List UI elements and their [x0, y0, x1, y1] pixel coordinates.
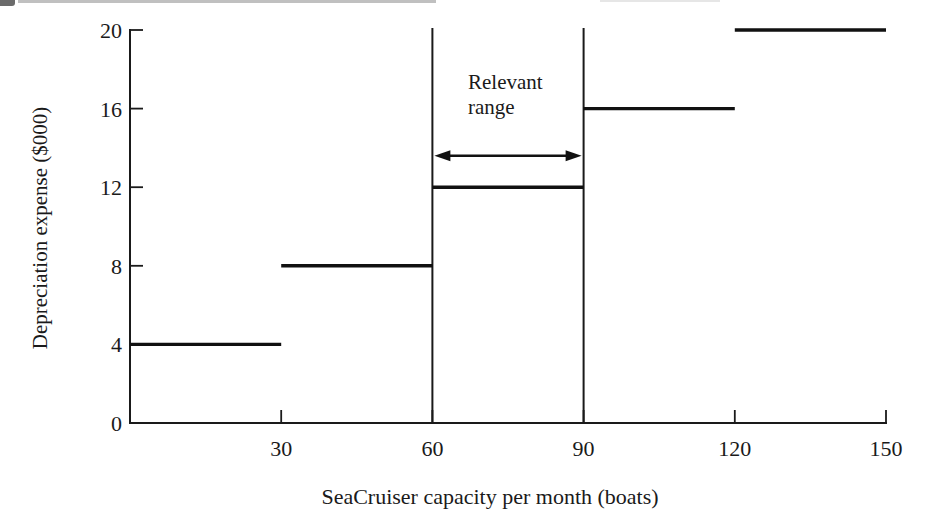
y-tick-label: 16 [100, 97, 122, 122]
relevant-range-label: Relevant range [468, 70, 543, 120]
y-axis-title: Depreciation expense ($000) [28, 107, 53, 350]
y-tick-label: 8 [111, 254, 122, 279]
range-arrow-right-head [566, 150, 582, 161]
y-tick-label: 0 [111, 411, 122, 436]
y-tick-label: 4 [111, 332, 122, 357]
y-tick-label: 20 [100, 18, 122, 43]
x-tick-label: 150 [870, 436, 903, 461]
range-arrow-left-head [434, 150, 450, 161]
x-tick-label: 30 [270, 436, 292, 461]
x-tick-label: 90 [573, 436, 595, 461]
x-axis-title: SeaCruiser capacity per month (boats) [321, 484, 658, 510]
x-tick-label: 60 [421, 436, 443, 461]
figure: 048121620306090120150 Depreciation expen… [0, 0, 931, 516]
y-tick-label: 12 [100, 175, 122, 200]
x-tick-label: 120 [718, 436, 751, 461]
chart-canvas: 048121620306090120150 [0, 0, 931, 516]
